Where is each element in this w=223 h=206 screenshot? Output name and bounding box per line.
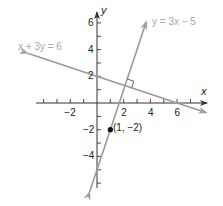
x-tick-label: −2	[64, 108, 75, 118]
equation-label-x-3y-6: x + 3y = 6	[18, 42, 62, 52]
x-tick-label: 4	[148, 108, 154, 118]
line-x-3y-6	[28, 53, 207, 113]
y-tick-label: 2	[88, 71, 94, 81]
x-axis-label: x	[201, 86, 207, 97]
line-y-3x-5	[90, 22, 147, 192]
coordinate-graph	[0, 0, 223, 206]
y-tick-label: −4	[83, 151, 94, 161]
y-tick-label: −2	[83, 125, 94, 135]
x-tick-label: 2	[121, 108, 127, 118]
point-label: (1, −2)	[113, 123, 142, 133]
y-tick-label: 4	[88, 45, 94, 55]
equation-label-y-3x-5: y = 3x − 5	[152, 17, 196, 27]
x-tick-label: 6	[175, 108, 181, 118]
y-axis-label: y	[101, 5, 107, 16]
y-tick-label: 6	[88, 18, 94, 28]
